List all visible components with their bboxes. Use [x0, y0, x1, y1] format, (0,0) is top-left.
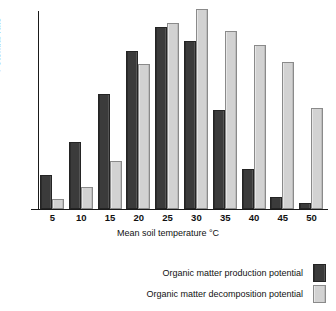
bar-group-35	[211, 11, 240, 209]
x-axis-line	[31, 209, 328, 210]
x-tick-45: 45	[268, 212, 297, 223]
plot-area	[38, 11, 326, 209]
x-axis-tick-labels: 5101520253035404550	[38, 212, 326, 228]
bar-dark-40	[242, 169, 254, 209]
bar-dark-50	[299, 203, 311, 209]
bar-dark-25	[155, 27, 167, 209]
x-tick-5: 5	[38, 212, 67, 223]
bar-dark-30	[184, 41, 196, 209]
bar-group-40	[240, 11, 269, 209]
legend-swatch-production	[313, 264, 326, 282]
legend-swatch-decomposition	[313, 285, 326, 303]
bar-group-10	[67, 11, 96, 209]
x-tick-10: 10	[67, 212, 96, 223]
bar-light-10	[81, 187, 93, 209]
bar-group-50	[297, 11, 326, 209]
bar-dark-10	[69, 142, 81, 209]
bar-dark-15	[98, 94, 110, 209]
bar-group-15	[96, 11, 125, 209]
bar-light-5	[52, 199, 64, 209]
bar-light-45	[282, 62, 294, 209]
x-tick-20: 20	[124, 212, 153, 223]
bar-light-50	[311, 108, 323, 209]
bar-group-30	[182, 11, 211, 209]
y-axis-title: Potential rate	[0, 0, 2, 72]
bar-light-20	[138, 64, 150, 209]
bar-light-35	[225, 31, 237, 209]
x-tick-35: 35	[211, 212, 240, 223]
legend-label-decomposition: Organic matter decomposition potential	[146, 289, 303, 299]
bar-group-20	[124, 11, 153, 209]
chart-legend: Organic matter production potential Orga…	[110, 262, 326, 304]
bar-group-45	[268, 11, 297, 209]
x-axis-title: Mean soil temperature °C	[0, 228, 336, 238]
legend-label-production: Organic matter production potential	[162, 268, 303, 278]
bar-dark-45	[270, 197, 282, 209]
x-tick-50: 50	[297, 212, 326, 223]
bar-light-25	[167, 23, 179, 209]
legend-item-production: Organic matter production potential	[110, 262, 326, 283]
legend-item-decomposition: Organic matter decomposition potential	[110, 283, 326, 304]
x-tick-30: 30	[182, 212, 211, 223]
bar-dark-20	[126, 51, 138, 209]
x-tick-40: 40	[240, 212, 269, 223]
bar-light-40	[254, 45, 266, 209]
bar-group-5	[38, 11, 67, 209]
bar-light-15	[110, 161, 122, 209]
bar-light-30	[196, 9, 208, 209]
bar-chart: Potential rate 5101520253035404550 Mean …	[0, 0, 336, 311]
bar-group-container	[38, 11, 326, 209]
x-tick-25: 25	[153, 212, 182, 223]
x-tick-15: 15	[96, 212, 125, 223]
bar-dark-35	[213, 110, 225, 209]
bar-group-25	[153, 11, 182, 209]
bar-dark-5	[40, 175, 52, 209]
